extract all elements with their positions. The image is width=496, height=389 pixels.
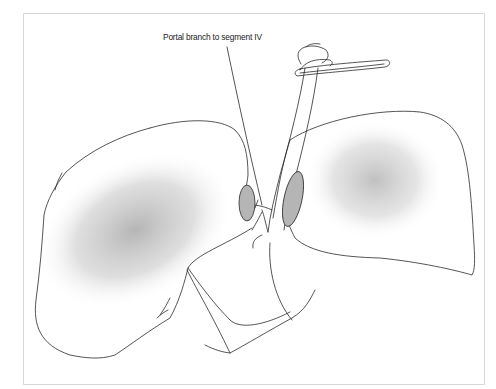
portal-branch-segment-iv [239,185,255,221]
quadrate-lobe-outline [188,268,315,353]
annotation-label-portal-branch: Portal branch to segment IV [163,31,262,42]
right-lobe-shading [9,119,260,341]
liver-illustration [0,0,496,389]
left-lobe-shading [305,120,445,240]
instrument-bar [295,60,390,76]
annotation-leader-line [227,47,262,205]
left-portal-branch [278,170,307,229]
